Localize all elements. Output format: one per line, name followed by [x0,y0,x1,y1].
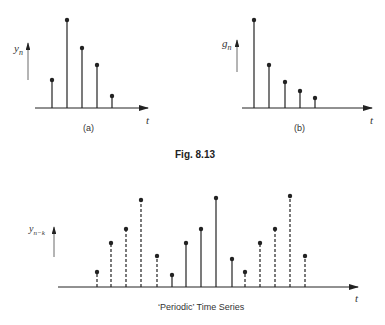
stem-marker [214,196,218,200]
stem-marker [124,227,128,231]
stem-marker [109,241,113,245]
periodic-caption: ‘Periodic’ Time Series [158,302,245,312]
stem-marker [230,257,234,261]
stem-marker [95,63,99,67]
y-label-periodic: yn−k [28,223,46,237]
panel-label-b: (b) [294,123,305,133]
stem-marker [110,94,114,98]
stem-marker [184,241,188,245]
stem-marker [258,241,262,245]
figure-caption: Fig. 8.13 [175,149,215,160]
stem-marker [298,89,302,93]
stem-marker [50,78,54,82]
stems-periodic [95,194,307,287]
stem-marker [288,194,292,198]
figure-canvas: yn t (a) gn t (b) Fig. 8.13 yn−k t ‘Peri… [0,0,385,325]
stem-marker [139,198,143,202]
stem-marker [95,270,99,274]
stem-marker [65,18,69,22]
stem-marker [170,273,174,277]
chart-periodic: yn−k t ‘Periodic’ Time Series [28,194,359,312]
stem-marker [243,270,247,274]
stem-marker [273,227,277,231]
stem-marker [252,18,256,22]
y-label-a: yn [13,42,23,57]
x-label-a: t [146,114,150,126]
stem-marker [199,227,203,231]
stem-marker [80,46,84,50]
stem-marker [313,96,317,100]
chart-a: yn t (a) [13,18,150,133]
y-label-b: gn [222,37,232,52]
chart-b: gn t (b) [222,18,374,133]
x-label-b: t [370,114,374,126]
x-label-periodic: t [355,292,359,304]
stems-a [50,18,114,108]
stem-marker [283,80,287,84]
stem-marker [155,254,159,258]
panel-label-a: (a) [83,123,94,133]
stem-marker [267,63,271,67]
stems-b [252,18,317,108]
stem-marker [303,254,307,258]
